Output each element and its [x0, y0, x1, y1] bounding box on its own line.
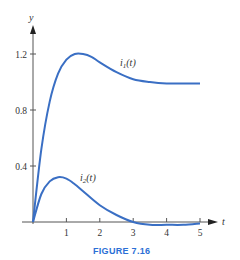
series-i2-line — [33, 177, 200, 225]
x-axis-label: t — [222, 216, 225, 227]
x-tick-label: 5 — [198, 228, 203, 238]
y-axis-arrow-icon — [30, 25, 36, 34]
figure-caption: FIGURE 7.16 — [93, 246, 150, 256]
y-axis-label: y — [28, 12, 34, 23]
y-tick-label: 1.2 — [15, 50, 27, 60]
x-tick-label: 2 — [97, 228, 102, 238]
y-axis: y — [28, 12, 36, 224]
x-tick-label: 4 — [164, 228, 169, 238]
series-i1-label: i1(t) — [120, 57, 136, 70]
x-tick-label: 3 — [131, 228, 136, 238]
figure-7-16: y t 0.40.81.2 12345 i1(t) i2(t) FIGURE 7… — [0, 0, 240, 260]
y-tick-label: 0.8 — [15, 106, 27, 116]
x-tick-label: 1 — [64, 228, 69, 238]
series-i1-line — [33, 53, 200, 222]
x-axis-arrow-icon — [208, 219, 218, 225]
series-i2-label: i2(t) — [80, 172, 96, 185]
y-tick-label: 0.4 — [15, 162, 27, 172]
